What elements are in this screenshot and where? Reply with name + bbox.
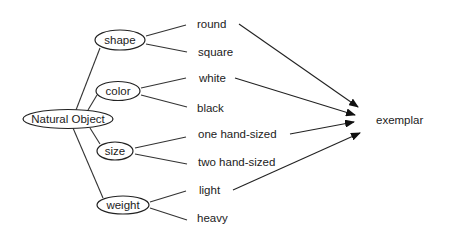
- attribute-label: shape: [104, 34, 135, 46]
- value-square: square: [198, 46, 233, 58]
- root-node: Natural Object: [23, 110, 113, 129]
- attribute-node-shape: shape: [95, 30, 145, 50]
- value-edges: [135, 25, 187, 220]
- value-light: light: [199, 184, 221, 196]
- arrow-one-hand-sized: [290, 122, 354, 134]
- attribute-node-color: color: [96, 82, 140, 101]
- arrow-white: [235, 78, 355, 115]
- exemplar-label: exemplar: [376, 114, 423, 126]
- attribute-label: color: [106, 85, 131, 97]
- attribute-node-size: size: [97, 142, 133, 160]
- root-label: Natural Object: [31, 113, 105, 125]
- concept-diagram: Natural Object shape color size weight r…: [0, 0, 451, 243]
- attribute-label: size: [105, 145, 125, 157]
- value-labels: round square white black one hand-sized …: [197, 18, 277, 224]
- value-white: white: [198, 72, 226, 84]
- attribute-node-weight: weight: [97, 196, 149, 214]
- value-two-hand-sized: two hand-sized: [198, 156, 275, 168]
- value-black: black: [197, 102, 224, 114]
- value-round: round: [197, 18, 226, 30]
- arrow-round: [239, 24, 358, 107]
- attribute-label: weight: [105, 199, 140, 211]
- value-heavy: heavy: [197, 212, 228, 224]
- value-one-hand-sized: one hand-sized: [198, 128, 277, 140]
